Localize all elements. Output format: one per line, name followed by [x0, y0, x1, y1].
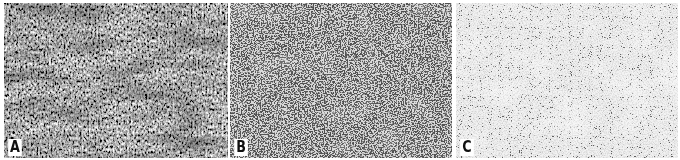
- micrograph-image-a: [4, 3, 228, 158]
- panel-label-a: A: [8, 139, 22, 156]
- micrograph-image-b: [230, 3, 452, 158]
- micrograph-panel-b: B: [230, 3, 452, 158]
- micrograph-image-c: [456, 3, 678, 158]
- panel-label-b: B: [234, 139, 248, 156]
- figure: A B: [0, 0, 680, 160]
- panel-label-c: C: [460, 139, 474, 156]
- micrograph-panel-c: C: [456, 3, 678, 158]
- micrograph-panel-a: A: [4, 3, 228, 158]
